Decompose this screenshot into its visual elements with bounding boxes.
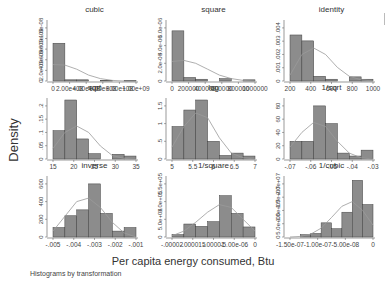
svg-text:-1.00e-07: -1.00e-07 <box>304 241 332 248</box>
svg-text:200: 200 <box>38 214 44 225</box>
svg-text:.5: .5 <box>157 138 163 144</box>
svg-text:-.03: -.03 <box>367 163 379 170</box>
svg-text:-.07: -.07 <box>284 163 296 170</box>
svg-text:0: 0 <box>170 85 174 92</box>
svg-text:.003: .003 <box>275 35 281 47</box>
svg-text:-.004: -.004 <box>66 241 81 248</box>
svg-text:.002: .002 <box>275 48 281 60</box>
panel-cubic: cubic02.0e-094.0e-096.0e-098.0e-091.0e-0… <box>38 5 150 92</box>
svg-text:1000: 1000 <box>366 85 381 92</box>
panel-1-cubic: 1/cubic05.0e+061.0e+071.5e+072.0e+07-1.5… <box>275 161 375 248</box>
svg-text:1/square: 1/square <box>198 161 230 170</box>
svg-text:-5.00e-08: -5.00e-08 <box>331 241 359 248</box>
svg-text:-.003: -.003 <box>87 241 102 248</box>
svg-text:cubic: cubic <box>85 5 104 14</box>
y-axis-title: Density <box>6 118 21 161</box>
svg-text:0: 0 <box>253 241 257 248</box>
svg-text:-.002: -.002 <box>108 241 123 248</box>
svg-text:800: 800 <box>347 85 358 92</box>
svg-text:0: 0 <box>275 157 281 161</box>
svg-text:6.5: 6.5 <box>230 163 239 170</box>
panel-1-square: 1/square05.0e+041.0e+051.5e+05-.00002-.0… <box>157 161 257 248</box>
svg-text:0: 0 <box>157 157 163 161</box>
svg-text:-.001: -.001 <box>129 241 144 248</box>
svg-text:35: 35 <box>132 163 140 170</box>
svg-text:-5.00e-06: -5.00e-06 <box>220 241 248 248</box>
svg-text:0: 0 <box>157 235 163 239</box>
svg-text:0: 0 <box>275 79 281 83</box>
svg-text:60: 60 <box>275 115 281 122</box>
svg-text:-.04: -.04 <box>347 163 359 170</box>
svg-text:40: 40 <box>275 128 281 135</box>
panel-square: square02.0e-064.0e-066.0e-06020000040000… <box>157 5 268 92</box>
svg-text:.004: .004 <box>275 21 281 33</box>
svg-text:15: 15 <box>49 163 57 170</box>
svg-text:-1.50e-07: -1.50e-07 <box>276 241 304 248</box>
panel-inverse: inverse0200400600-.005-.004-.003-.002-.0… <box>38 161 144 248</box>
svg-text:0: 0 <box>38 235 44 239</box>
svg-text:-.06: -.06 <box>305 163 317 170</box>
svg-text:1.5: 1.5 <box>157 101 163 110</box>
svg-text:5.5: 5.5 <box>188 163 197 170</box>
panel-log: log0.511.555.566.57 <box>157 83 257 170</box>
chart-note: Histograms by transformation <box>30 270 121 277</box>
svg-text:7: 7 <box>253 163 257 170</box>
svg-text:2.0e+07: 2.0e+07 <box>275 172 281 195</box>
svg-text:1/sqrt: 1/sqrt <box>321 83 342 92</box>
svg-text:20: 20 <box>70 163 78 170</box>
panel-1-sqrt: 1/sqrt020406080-.07-.06-.05-.04-.03 <box>275 83 379 170</box>
panel-sqrt: sqrt0.05.1.15.21520253035 <box>38 83 140 170</box>
svg-text:sqrt: sqrt <box>88 83 102 92</box>
panel-identity: identity0.001.002.003.004200400600800100… <box>275 5 381 92</box>
svg-text:0: 0 <box>51 85 55 92</box>
svg-text:1/cubic: 1/cubic <box>319 161 344 170</box>
svg-text:1.00e+09: 1.00e+09 <box>122 85 150 92</box>
svg-text:.1: .1 <box>38 129 44 135</box>
svg-text:1: 1 <box>157 121 163 125</box>
svg-text:inverse: inverse <box>82 161 108 170</box>
svg-text:identity: identity <box>319 5 344 14</box>
svg-text:0: 0 <box>38 157 44 161</box>
svg-text:.05: .05 <box>38 141 44 150</box>
svg-text:1000000: 1000000 <box>242 85 268 92</box>
svg-text:0: 0 <box>157 79 163 83</box>
svg-text:30: 30 <box>112 163 120 170</box>
svg-text:600: 600 <box>38 178 44 189</box>
svg-text:1.5e+05: 1.5e+05 <box>157 172 163 195</box>
x-axis-title: Per capita energy consumed, Btu <box>0 255 386 267</box>
histogram-grid: cubic02.0e-094.0e-096.0e-098.0e-091.0e-0… <box>0 0 386 295</box>
svg-text:0: 0 <box>371 241 375 248</box>
svg-text:square: square <box>201 5 226 14</box>
svg-text:400: 400 <box>38 196 44 207</box>
svg-text:1.0e-08: 1.0e-08 <box>38 17 44 38</box>
svg-text:.2: .2 <box>38 103 44 109</box>
svg-text:5: 5 <box>170 163 174 170</box>
svg-text:.001: .001 <box>275 61 281 73</box>
svg-text:200: 200 <box>285 85 296 92</box>
svg-text:log: log <box>208 83 219 92</box>
svg-text:20: 20 <box>275 142 281 149</box>
svg-text:-.005: -.005 <box>46 241 61 248</box>
svg-text:400: 400 <box>305 85 316 92</box>
window-edge-mark <box>384 13 385 25</box>
svg-text:80: 80 <box>275 102 281 109</box>
svg-text:6.0e-06: 6.0e-06 <box>157 17 163 38</box>
svg-text:.15: .15 <box>38 114 44 123</box>
